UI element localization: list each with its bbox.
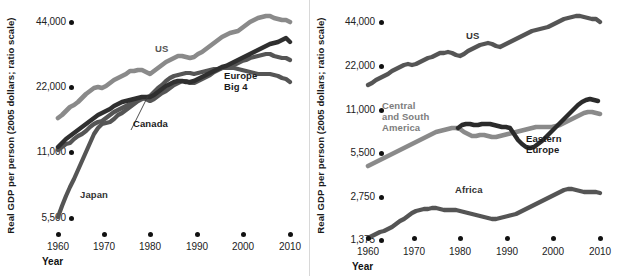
series-label-central-and-south-america: Central and South America <box>382 100 429 133</box>
series-label-africa: Africa <box>455 184 483 195</box>
panel-advanced-economies: Real GDP per person (2005 dollars; ratio… <box>0 0 309 276</box>
x-tick-dot-1970-right <box>412 236 417 241</box>
x-tick-label-2010-left: 2010 <box>270 241 310 252</box>
plot-right <box>310 0 618 276</box>
plot-left <box>0 0 309 276</box>
panel-world-regions: Real GDP per person (2005 dollars; ratio… <box>309 0 618 276</box>
x-tick-label-1960-right: 1960 <box>348 246 388 257</box>
x-tick-label-2000-right: 2000 <box>533 246 573 257</box>
x-tick-dot-1980-right <box>458 236 463 241</box>
series-label-us-right: US <box>466 30 479 41</box>
series-label-europe-big-4: Europe Big 4 <box>224 70 257 92</box>
x-tick-dot-1960-left <box>56 232 61 237</box>
x-tick-label-2000-left: 2000 <box>223 241 263 252</box>
x-tick-label-1980-left: 1980 <box>130 241 170 252</box>
series-line-us-right <box>368 16 600 85</box>
x-tick-dot-1980-left <box>148 232 153 237</box>
series-label-eastern-europe: Eastern Europe <box>526 133 562 155</box>
series-line-europe-big-4 <box>58 38 290 147</box>
x-tick-label-1960-left: 1960 <box>38 241 78 252</box>
series-line-africa <box>368 189 600 238</box>
x-tick-dot-1990-right <box>505 236 510 241</box>
x-axis-title-right: Year <box>352 261 373 272</box>
x-tick-label-1970-right: 1970 <box>394 246 434 257</box>
x-tick-dot-1960-right <box>366 236 371 241</box>
series-label-us-left: US <box>155 43 168 54</box>
figure-root: Real GDP per person (2005 dollars; ratio… <box>0 0 618 276</box>
x-tick-dot-2010-left <box>288 232 293 237</box>
x-tick-label-1990-right: 1990 <box>487 246 527 257</box>
x-tick-dot-1990-left <box>195 232 200 237</box>
x-tick-dot-2000-right <box>551 236 556 241</box>
series-label-canada: Canada <box>133 118 168 129</box>
x-axis-title-left: Year <box>42 256 63 267</box>
x-tick-dot-1970-left <box>102 232 107 237</box>
x-tick-label-1980-right: 1980 <box>440 246 480 257</box>
x-tick-dot-2000-left <box>241 232 246 237</box>
x-tick-label-2010-right: 2010 <box>580 246 618 257</box>
x-tick-label-1970-left: 1970 <box>84 241 124 252</box>
x-tick-dot-2010-right <box>598 236 603 241</box>
x-tick-label-1990-left: 1990 <box>177 241 217 252</box>
series-line-us <box>58 16 290 118</box>
series-label-japan: Japan <box>80 189 108 200</box>
